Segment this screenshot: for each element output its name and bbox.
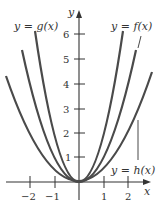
y-tick-label: 4 [63, 79, 69, 90]
function-graph: 6 5 4 3 2 1 −2 −1 1 2 x y y = g(x) y = f… [0, 0, 160, 205]
label-g: y = g(x) [13, 20, 58, 33]
y-tick-label: 1 [65, 152, 71, 163]
x-tick-label: −2 [21, 191, 36, 202]
y-tick-label: 2 [63, 128, 69, 139]
y-axis-arrow-icon [76, 10, 82, 18]
x-tick-label: 1 [101, 191, 107, 202]
label-h: y = h(x) [110, 164, 155, 177]
x-axis-label: x [144, 185, 151, 198]
y-axis-label: y [67, 6, 75, 19]
label-f: y = f(x) [110, 20, 152, 33]
y-tick-label: 3 [63, 104, 69, 115]
y-tick-label: 6 [63, 29, 69, 40]
x-tick-label: 2 [125, 191, 131, 202]
y-tick-label: 5 [63, 54, 69, 65]
x-tick-label: −1 [45, 191, 60, 202]
leader-f [138, 36, 141, 48]
